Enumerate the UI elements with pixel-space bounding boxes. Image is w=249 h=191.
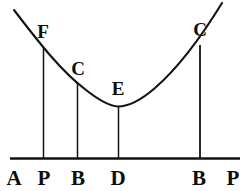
curve-label-C-left: C <box>71 59 85 78</box>
axis-label-P-left: P <box>38 168 51 189</box>
curve-label-C-right: C <box>193 20 207 39</box>
axis-label-B-right: B <box>192 168 206 189</box>
curve-label-E: E <box>112 79 125 98</box>
axis-label-A: A <box>6 168 21 189</box>
axis-label-B-left: B <box>71 168 85 189</box>
figure-canvas: F C E C A P B D B P <box>0 0 249 191</box>
curve-label-F: F <box>37 22 49 41</box>
axis-label-P-right: P <box>227 168 240 189</box>
axis-label-D: D <box>110 168 125 189</box>
